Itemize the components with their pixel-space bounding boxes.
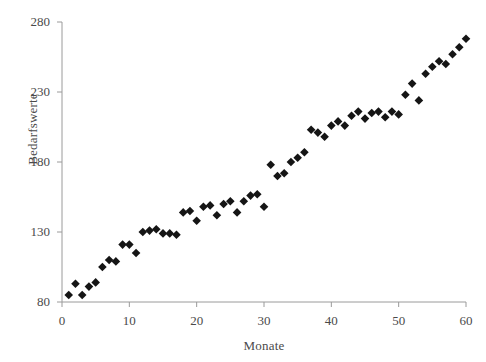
data-point xyxy=(455,43,464,52)
x-axis-ticks xyxy=(62,302,466,307)
x-tick-label: 0 xyxy=(42,314,82,327)
data-point xyxy=(105,256,114,265)
axes xyxy=(62,22,466,302)
data-point xyxy=(125,240,134,249)
data-point xyxy=(421,70,430,79)
data-point xyxy=(361,114,370,123)
data-point xyxy=(152,225,161,234)
data-point xyxy=(334,117,343,126)
data-point xyxy=(266,161,275,170)
data-point xyxy=(199,203,208,212)
data-point xyxy=(246,191,255,200)
data-point xyxy=(165,229,174,238)
data-point xyxy=(287,158,296,167)
data-point xyxy=(233,208,242,217)
y-axis-title: Bedarfswerte xyxy=(25,93,40,165)
data-point xyxy=(367,109,376,118)
data-point xyxy=(415,96,424,105)
y-axis-ticks xyxy=(57,22,62,302)
data-point xyxy=(462,35,471,44)
data-point xyxy=(401,91,410,100)
x-tick-label: 50 xyxy=(379,314,419,327)
data-point xyxy=(408,79,417,88)
data-point xyxy=(64,291,73,300)
data-point xyxy=(320,133,329,142)
x-axis-title: Monate xyxy=(244,338,285,353)
data-point xyxy=(186,207,195,216)
x-tick-label: 10 xyxy=(109,314,149,327)
x-tick-label: 20 xyxy=(177,314,217,327)
data-point xyxy=(381,113,390,122)
data-points xyxy=(64,35,470,300)
data-point xyxy=(240,197,249,206)
data-point xyxy=(139,228,148,237)
plot-canvas xyxy=(0,0,486,362)
data-point xyxy=(354,107,363,116)
data-point xyxy=(172,231,181,240)
data-point xyxy=(78,291,87,300)
data-point xyxy=(213,211,222,220)
data-point xyxy=(132,249,141,258)
x-axis-title-wrap: Monate xyxy=(62,336,466,354)
data-point xyxy=(91,278,100,287)
x-tick-label: 60 xyxy=(446,314,486,327)
data-point xyxy=(327,121,336,130)
data-point xyxy=(300,148,309,157)
y-tick-label: 80 xyxy=(16,295,50,308)
data-point xyxy=(206,201,215,210)
data-point xyxy=(260,203,269,212)
data-point xyxy=(428,63,437,72)
data-point xyxy=(112,257,121,266)
data-point xyxy=(448,50,457,59)
y-axis-title-wrap: Bedarfswerte xyxy=(23,69,41,189)
data-point xyxy=(85,282,94,291)
y-tick-label: 280 xyxy=(16,15,50,28)
data-point xyxy=(192,217,201,226)
x-tick-label: 30 xyxy=(244,314,284,327)
data-point xyxy=(179,208,188,217)
x-tick-label: 40 xyxy=(311,314,351,327)
data-point xyxy=(253,190,262,199)
data-point xyxy=(71,280,80,289)
data-point xyxy=(293,154,302,163)
scatter-chart: 80130180230280 0102030405060 Bedarfswert… xyxy=(0,0,486,362)
data-point xyxy=(374,107,383,116)
data-point xyxy=(145,226,154,235)
y-tick-label: 130 xyxy=(16,225,50,238)
data-point xyxy=(98,263,107,272)
data-point xyxy=(341,121,350,130)
data-point xyxy=(347,112,356,121)
